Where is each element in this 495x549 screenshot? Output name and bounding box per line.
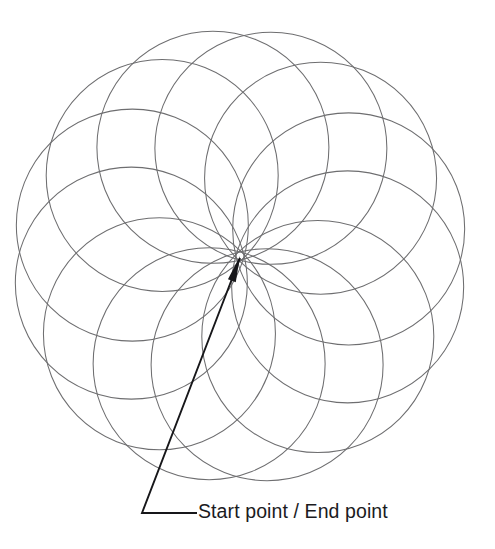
circle-roulette-diagram: Start point / End point [0, 0, 495, 549]
figure-root: Start point / End point [0, 0, 495, 549]
start-end-point-label: Start point / End point [198, 500, 388, 522]
